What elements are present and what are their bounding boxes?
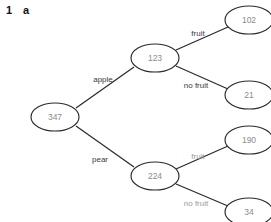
edge-label-pear-fruit-edge: fruit [191, 152, 205, 161]
tree-node-apple[interactable]: 123 [131, 44, 179, 72]
node-label-pear-nofruit: 34 [244, 207, 254, 217]
node-label-apple-fruit: 102 [242, 15, 256, 25]
tree-node-pear[interactable]: 224 [131, 162, 179, 190]
node-label-pear: 224 [148, 171, 162, 181]
node-label-pear-fruit: 190 [242, 135, 256, 145]
edge-label-apple-nofruit-edge: no fruit [184, 81, 209, 90]
tree-nodes: 3471232241022119034 [31, 6, 271, 222]
node-label-apple: 123 [148, 53, 162, 63]
tree-node-pear-fruit[interactable]: 190 [225, 126, 271, 154]
node-label-root: 347 [48, 112, 62, 122]
tree-node-apple-nofruit[interactable]: 21 [225, 81, 271, 109]
edge-label-root-pear: pear [92, 155, 108, 164]
tree-node-apple-fruit[interactable]: 102 [225, 6, 271, 34]
tree-node-root[interactable]: 347 [31, 103, 79, 131]
tree-edge-root-apple [76, 67, 134, 108]
tree-node-pear-nofruit[interactable]: 34 [225, 198, 271, 222]
node-label-apple-nofruit: 21 [244, 90, 254, 100]
edge-label-pear-nofruit-edge: no fruit [184, 199, 209, 208]
decision-tree-graphic: 3471232241022119034 applepearfruitno fru… [0, 0, 271, 222]
edge-label-root-apple: apple [93, 75, 113, 84]
diagram-page: 1 a 3471232241022119034 applepearfruitno… [0, 0, 271, 222]
edge-label-apple-fruit-edge: fruit [191, 29, 205, 38]
